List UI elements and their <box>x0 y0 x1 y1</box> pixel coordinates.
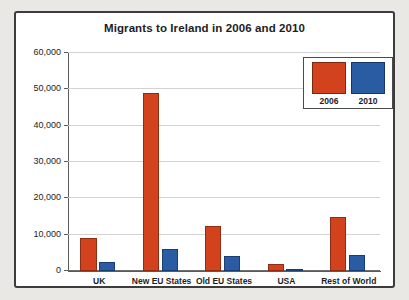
y-axis-tick-label: 40,000 <box>33 120 61 130</box>
bar-2010-old-eu-states <box>224 256 240 271</box>
x-axis-line <box>68 271 381 272</box>
y-axis-tick-label: 0 <box>56 265 61 275</box>
bar-group: UK <box>68 53 130 271</box>
bar-group: New EU States <box>130 53 192 271</box>
x-axis-category-label: Rest of World <box>318 276 380 286</box>
bar-group: Old EU States <box>193 53 255 271</box>
legend-item-2006: 2006 <box>312 62 346 106</box>
bar-2006-rest-of-world <box>330 217 346 272</box>
x-axis-category-label: USA <box>255 276 317 286</box>
y-axis-tick-label: 50,000 <box>33 83 61 93</box>
bar-2006-old-eu-states <box>205 226 221 271</box>
bar-2006-usa <box>268 264 284 271</box>
chart-title: Migrants to Ireland in 2006 and 2010 <box>16 22 393 34</box>
legend-label-2010: 2010 <box>351 96 385 106</box>
x-axis-category-label: New EU States <box>130 276 192 286</box>
bar-2006-new-eu-states <box>143 93 159 271</box>
bar-2010-new-eu-states <box>162 249 178 271</box>
y-axis-tick-label: 10,000 <box>33 229 61 239</box>
x-axis-category-label: Old EU States <box>193 276 255 286</box>
legend-swatch-2010 <box>351 62 385 94</box>
bar-2010-rest-of-world <box>349 255 365 271</box>
x-axis-category-label: UK <box>68 276 130 286</box>
chart-legend: 20062010 <box>303 57 393 109</box>
bar-2006-uk <box>80 238 96 271</box>
legend-swatch-2006 <box>312 62 346 94</box>
bar-2010-usa <box>286 269 302 271</box>
bar-2010-uk <box>99 262 115 271</box>
y-axis-tick-label: 20,000 <box>33 192 61 202</box>
y-axis-tick-label: 30,000 <box>33 156 61 166</box>
legend-item-2010: 2010 <box>351 62 385 106</box>
legend-label-2006: 2006 <box>312 96 346 106</box>
chart-frame: Migrants to Ireland in 2006 and 2010 010… <box>14 11 395 288</box>
y-axis-tick-label: 60,000 <box>33 47 61 57</box>
